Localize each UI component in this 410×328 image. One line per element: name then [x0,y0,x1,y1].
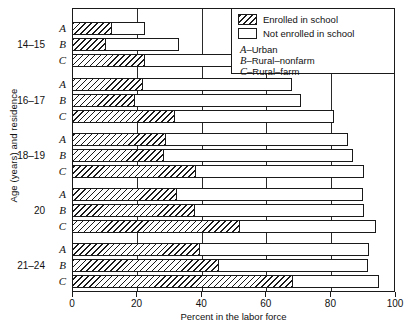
x-tick-label-20: 20 [117,298,157,309]
sub-label-20-A: A [48,188,66,201]
bar-row [72,110,395,123]
residence-key-label-c: Rural–farm [252,66,299,77]
bar-enrolled-18–19-C [72,165,196,178]
group-label-18–19: 18–19 [0,149,45,162]
bar-enrolled-16–17-C [72,110,175,123]
sub-label-16–17-C: C [48,110,66,123]
group-label-20: 20 [0,204,45,217]
sub-label-21–24-A: A [48,243,66,256]
sub-label-18–19-B: B [48,149,66,162]
bar-row [72,94,395,107]
residence-key-label-a: Urban [252,44,278,55]
bar-row [72,149,395,162]
bar-enrolled-20-A [72,188,177,201]
sub-label-21–24-B: B [48,259,66,272]
hatch-swatch-icon [238,14,257,25]
bar-row [72,220,395,233]
sub-label-14–15-B: B [48,38,66,51]
bar-enrolled-16–17-B [72,94,135,107]
bar-row [72,78,395,91]
residence-key-label-b: Rural–nonfarm [252,55,315,66]
sub-label-20-B: B [48,204,66,217]
sub-label-21–24-C: C [48,275,66,288]
residence-key-c: C–Rural–farm [240,66,299,78]
bar-enrolled-16–17-A [72,78,143,91]
bar-enrolled-21–24-B [72,259,219,272]
x-tick-label-80: 80 [310,298,350,309]
sub-label-20-C: C [48,220,66,233]
legend-label-not-enrolled: Not enrolled in school [263,28,354,39]
bar-row [72,165,395,178]
sub-label-16–17-B: B [48,94,66,107]
x-tick-20 [136,292,137,297]
sub-label-18–19-C: C [48,165,66,178]
bar-enrolled-14–15-C [72,54,145,67]
bar-enrolled-21–24-A [72,243,200,256]
residence-key-letter-c: C [240,66,247,77]
bar-enrolled-18–19-B [72,149,164,162]
sub-label-14–15-C: C [48,54,66,67]
x-tick-60 [265,292,266,297]
sub-label-16–17-A: A [48,78,66,91]
bar-enrolled-20-C [72,220,240,233]
bar-row [72,275,395,288]
x-axis-title: Percent in the labor force [72,311,395,322]
x-tick-label-60: 60 [246,298,286,309]
legend: Enrolled in school Not enrolled in schoo… [231,8,395,74]
chart-container: Age (years) and residence ABC14–15ABC16–… [0,0,410,328]
x-tick-label-100: 100 [375,298,410,309]
bar-enrolled-20-B [72,204,195,217]
group-label-16–17: 16–17 [0,94,45,107]
bar-row [72,204,395,217]
bar-row [72,188,395,201]
x-tick-100 [395,292,396,297]
group-label-14–15: 14–15 [0,38,45,51]
x-tick-label-40: 40 [181,298,221,309]
bar-row [72,133,395,146]
bar-row [72,259,395,272]
x-tick-0 [72,292,73,297]
open-swatch-icon [238,28,257,39]
group-label-21–24: 21–24 [0,259,45,272]
bar-enrolled-14–15-A [72,22,112,35]
bar-enrolled-14–15-B [72,38,106,51]
x-tick-label-0: 0 [52,298,92,309]
legend-label-enrolled: Enrolled in school [263,14,338,25]
sub-label-14–15-A: A [48,22,66,35]
x-tick-80 [330,292,331,297]
bar-enrolled-18–19-A [72,133,166,146]
legend-item-enrolled: Enrolled in school [238,13,338,26]
legend-item-not-enrolled: Not enrolled in school [238,27,354,40]
bar-row [72,243,395,256]
bar-enrolled-21–24-C [72,275,293,288]
sub-label-18–19-A: A [48,133,66,146]
x-tick-40 [201,292,202,297]
